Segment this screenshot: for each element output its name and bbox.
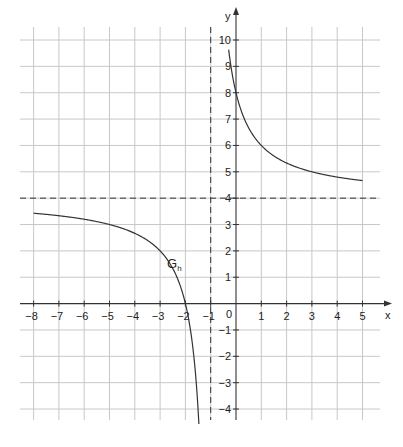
x-tick-label: −6	[76, 310, 89, 322]
y-tick-label: 5	[225, 166, 231, 178]
x-tick-label: −7	[51, 310, 64, 322]
y-tick-label: −4	[218, 403, 231, 415]
x-tick-label: −4	[127, 310, 140, 322]
x-tick-label: −5	[101, 310, 114, 322]
function-graph: −8−7−6−5−4−3−2−1012345−4−3−2−11234567891…	[0, 0, 403, 447]
x-tick-label: −8	[25, 310, 38, 322]
y-tick-label: 1	[225, 271, 231, 283]
y-tick-label: 3	[225, 219, 231, 231]
axes	[20, 7, 392, 420]
y-axis-arrow-icon	[233, 7, 239, 15]
asymptote-lines	[20, 27, 380, 420]
y-tick-label: −1	[218, 324, 231, 336]
x-tick-label: 3	[309, 310, 315, 322]
y-tick-label: −3	[218, 377, 231, 389]
curve-right-branch	[229, 50, 363, 181]
curve-label: Gh	[167, 256, 182, 273]
x-tick-label: 0	[226, 308, 232, 320]
x-tick-label: 2	[284, 310, 290, 322]
x-tick-label: −1	[202, 310, 215, 322]
y-tick-label: 7	[225, 113, 231, 125]
x-axis-label: x	[385, 309, 391, 321]
x-tick-label: −3	[152, 310, 165, 322]
y-axis-label: y	[225, 10, 231, 22]
x-tick-label: 4	[334, 310, 340, 322]
y-tick-label: 2	[225, 245, 231, 257]
y-tick-label: 6	[225, 139, 231, 151]
x-tick-label: 1	[258, 310, 264, 322]
y-tick-label: −2	[218, 350, 231, 362]
x-axis-arrow-icon	[384, 301, 392, 307]
y-tick-label: 10	[219, 34, 231, 46]
y-tick-label: 8	[225, 87, 231, 99]
y-tick-label: 4	[225, 192, 231, 204]
grid-lines	[20, 27, 380, 420]
function-curve	[34, 50, 363, 424]
x-tick-label: 5	[359, 310, 365, 322]
curve-label-text: Gh	[167, 256, 182, 273]
